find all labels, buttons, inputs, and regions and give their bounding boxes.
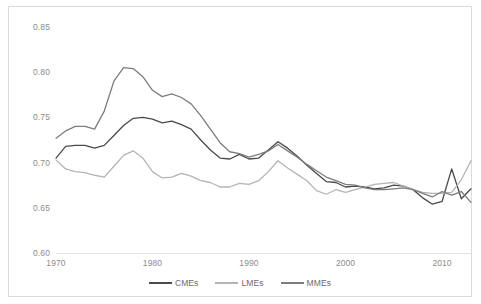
x-tick-label: 2000 [336, 258, 355, 268]
line-chart: 0.850.800.750.700.650.60 197019801990200… [0, 0, 481, 304]
series-line-mmes [56, 68, 471, 203]
legend-label: MMEs [307, 278, 331, 288]
series-lines [56, 27, 471, 253]
x-tick-label: 2010 [432, 258, 451, 268]
x-tick-label: 1990 [239, 258, 258, 268]
y-tick-label: 0.65 [33, 203, 50, 213]
y-tick-label: 0.60 [33, 248, 50, 258]
legend-item-cmes[interactable]: CMEs [149, 278, 199, 288]
legend-label: LMEs [241, 278, 263, 288]
x-tick-label: 1970 [46, 258, 65, 268]
plot-area: 0.850.800.750.700.650.60 197019801990200… [56, 27, 471, 253]
legend-label: CMEs [175, 278, 199, 288]
x-axis-line [56, 253, 471, 254]
x-tick-label: 1980 [143, 258, 162, 268]
y-tick-label: 0.85 [33, 22, 50, 32]
legend-item-mmes[interactable]: MMEs [281, 278, 331, 288]
legend-swatch-icon [149, 282, 172, 284]
legend-item-lmes[interactable]: LMEs [215, 278, 263, 288]
series-line-lmes [56, 151, 471, 194]
chart-legend: CMEsLMEsMMEs [9, 278, 471, 288]
y-tick-label: 0.80 [33, 67, 50, 77]
legend-swatch-icon [281, 282, 304, 284]
legend-swatch-icon [215, 282, 238, 284]
chart-frame: 0.850.800.750.700.650.60 197019801990200… [8, 6, 472, 297]
y-tick-label: 0.70 [33, 158, 50, 168]
y-tick-label: 0.75 [33, 112, 50, 122]
